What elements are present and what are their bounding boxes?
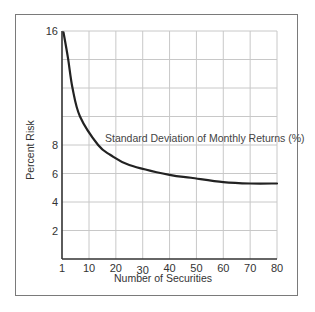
x-tick-label: 70 — [244, 262, 256, 274]
risk-curve — [64, 32, 278, 183]
x-tick-label: 60 — [217, 262, 229, 274]
y-tick-label: 8 — [52, 139, 58, 151]
series-annotation: Standard Deviation of Monthly Returns (%… — [105, 132, 305, 144]
y-tick-label: 4 — [52, 196, 58, 208]
x-tick-label: 1 — [59, 262, 65, 274]
risk-chart: 11020304050607080 246816 Standard Deviat… — [0, 0, 315, 312]
y-axis-title: Percent Risk — [24, 119, 36, 179]
x-tick-label: 80 — [271, 262, 283, 274]
y-tick-label: 6 — [52, 168, 58, 180]
x-axis-title: Number of Securities — [114, 272, 212, 284]
y-tick-label: 16 — [46, 25, 58, 37]
y-tick-labels: 246816 — [46, 25, 58, 237]
y-tick-label: 2 — [52, 225, 58, 237]
gridlines — [62, 31, 277, 259]
x-tick-label: 10 — [83, 262, 95, 274]
